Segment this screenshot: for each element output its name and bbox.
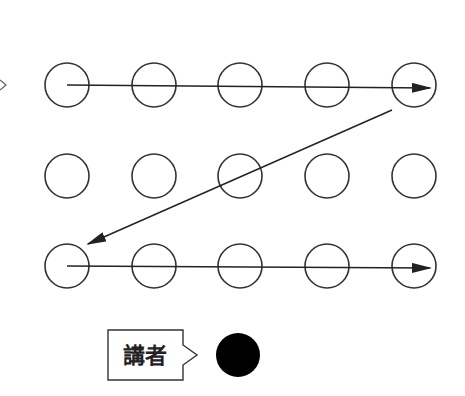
seat-r2-c2 (132, 154, 176, 198)
seat-r1-c3 (218, 63, 262, 107)
arrow-diagonal (88, 110, 392, 244)
arrow-row1 (67, 85, 430, 88)
seat-r2-c4 (305, 154, 349, 198)
seat-r2-c3 (218, 154, 262, 198)
seat-r3-c3 (218, 244, 262, 288)
seat-grid (45, 63, 436, 288)
seating-diagram: 講者 (0, 0, 465, 396)
seat-r1-c5 (392, 63, 436, 107)
seat-r2-c5 (392, 154, 436, 198)
speaker-label: 講者 (123, 343, 167, 368)
speaker-callout: 講者 (108, 330, 197, 380)
arrow-row3 (67, 266, 430, 268)
seat-r1-c4 (305, 63, 349, 107)
partial-callout-tip (0, 80, 6, 90)
seat-r3-c4 (305, 244, 349, 288)
seat-r3-c5 (392, 244, 436, 288)
seat-r2-c1 (45, 154, 89, 198)
speaker-dot (216, 333, 260, 377)
